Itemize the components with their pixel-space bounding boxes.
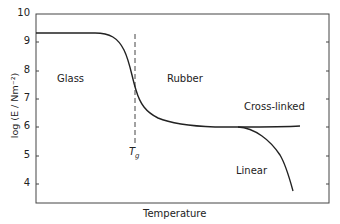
label-glass: Glass: [57, 73, 84, 84]
label-tg: Tg: [129, 146, 140, 160]
label-linear: Linear: [236, 165, 267, 176]
y-tick-9: 9: [16, 35, 30, 46]
tg-subscript: g: [135, 152, 139, 160]
x-axis-label: Temperature: [143, 208, 206, 219]
label-rubber: Rubber: [167, 73, 203, 84]
curve-crosslinked: [238, 126, 300, 127]
chart-canvas: [0, 0, 340, 224]
label-crosslinked: Cross-linked: [244, 101, 305, 112]
y-axis-label: log (E / Nm⁻²): [9, 56, 20, 156]
y-tick-10: 10: [16, 7, 30, 18]
curve-linear: [238, 127, 293, 191]
y-tick-4: 4: [16, 177, 30, 188]
